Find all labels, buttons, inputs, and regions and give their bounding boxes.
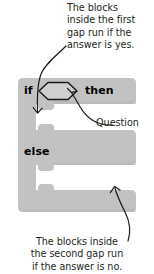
annotation-question-label: Question bbox=[96, 117, 139, 129]
annotation-second-gap-caption: The blocks inside the second gap run if … bbox=[2, 236, 152, 273]
annotation-first-gap-caption: The blocks inside the first gap run if t… bbox=[67, 2, 154, 52]
boolean-hexagon-slot[interactable] bbox=[39, 83, 77, 100]
block-label-else: else bbox=[24, 146, 50, 158]
diagram-canvas: The blocks inside the first gap run if t… bbox=[0, 0, 154, 274]
hexagon-icon bbox=[39, 83, 77, 100]
block-label-then: then bbox=[85, 85, 114, 97]
block-label-if: if bbox=[24, 85, 33, 97]
